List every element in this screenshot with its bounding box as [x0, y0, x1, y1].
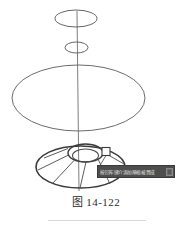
down-arrow-icon[interactable] [166, 168, 173, 176]
dynamic-input-tooltip[interactable]: 按回车键介添加移植被置成 [97, 165, 175, 178]
upper-small-ellipse[interactable] [65, 42, 88, 53]
cone-inner-ellipse[interactable] [73, 149, 99, 162]
figure-caption: 图14-122 [0, 193, 192, 209]
tooltip-label: 按回车键介添加移植被置成 [100, 169, 163, 175]
grip-square-icon[interactable] [102, 148, 110, 156]
caption-number: 14-122 [86, 196, 120, 208]
cone-radial-line [52, 161, 74, 185]
cone-radial-line [38, 155, 69, 170]
figure-page: 按回车键介添加移植被置成 图14-122 [0, 0, 192, 228]
caption-label: 图 [72, 196, 84, 208]
top-ellipse[interactable] [55, 10, 97, 27]
vertical-axis-line [77, 11, 79, 191]
page-divider [48, 220, 146, 221]
cone-radial-line [80, 162, 86, 188]
